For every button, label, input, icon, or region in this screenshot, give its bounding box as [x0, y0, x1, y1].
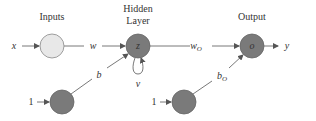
label-w: w: [90, 40, 97, 51]
label-bias1-input: 1: [29, 96, 34, 107]
label-x: x: [11, 40, 17, 51]
edge-bias2-to-output-a: [193, 81, 212, 94]
header-hidden-line2: Layer: [126, 15, 150, 26]
label-w-o: wO: [190, 40, 202, 53]
node-bias-hidden: [50, 90, 74, 114]
label-bias2-input: 1: [152, 96, 157, 107]
label-y: y: [284, 40, 290, 51]
header-inputs: Inputs: [40, 11, 65, 22]
edge-bias1-to-hidden-a: [71, 79, 92, 94]
header-output: Output: [238, 11, 266, 22]
self-loop-hidden: [133, 58, 143, 74]
node-bias-output: [172, 90, 196, 114]
header-hidden-line1: Hidden: [123, 3, 152, 14]
node-input: [40, 34, 64, 58]
rnn-diagram: Inputs Hidden Layer Output x w wO y 1 b …: [0, 0, 316, 121]
label-b-o: bO: [217, 70, 227, 83]
label-v: v: [136, 78, 141, 89]
edge-bias1-to-hidden-b: [107, 54, 128, 68]
node-hidden-label: z: [135, 40, 140, 51]
node-output-label: o: [250, 40, 255, 51]
label-b: b: [97, 69, 102, 80]
edge-bias2-to-output-b: [229, 55, 243, 68]
